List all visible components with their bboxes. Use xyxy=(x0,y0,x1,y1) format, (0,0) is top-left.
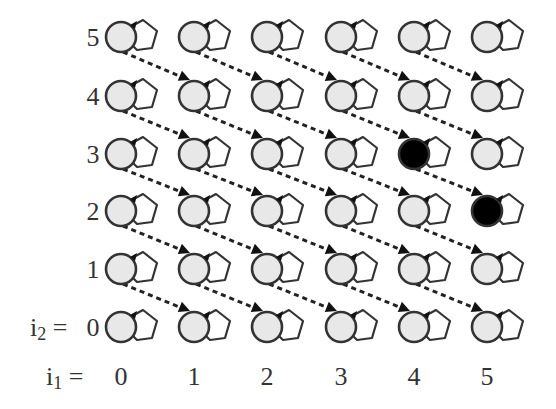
node-circle xyxy=(399,22,429,52)
dependence-edge xyxy=(123,52,184,78)
dependence-edge xyxy=(343,226,404,251)
node-circle xyxy=(399,196,429,226)
node-circle xyxy=(326,81,356,111)
dependence-edge xyxy=(269,169,331,193)
col-label-4: 4 xyxy=(408,362,421,391)
dependence-edge xyxy=(416,226,477,251)
node-circle xyxy=(252,254,282,284)
node-i1-0-i2-4 xyxy=(106,79,157,111)
node-circle xyxy=(326,312,356,342)
col-label-5: 5 xyxy=(481,362,494,391)
node-i1-2-i2-2 xyxy=(252,194,303,226)
arrowhead-icon xyxy=(325,129,337,139)
arrowhead-icon xyxy=(398,186,410,196)
arrowhead-icon xyxy=(251,186,263,196)
node-i1-5-i2-4 xyxy=(472,79,523,111)
dependence-edge xyxy=(416,169,477,193)
dependence-edge xyxy=(196,111,257,136)
arrowhead-icon xyxy=(325,71,337,81)
dependence-edge xyxy=(196,52,257,78)
row-label-1: 1 xyxy=(87,255,100,284)
node-i1-5-i2-3 xyxy=(472,137,523,169)
node-circle xyxy=(179,139,209,169)
node-i1-1-i2-3 xyxy=(179,137,230,169)
dependence-graph-diagram: i2 = i1 = 012345012345 xyxy=(0,0,556,409)
dependence-edge xyxy=(269,111,331,136)
node-i1-5-i2-0 xyxy=(472,310,523,342)
arrowhead-icon xyxy=(398,244,410,254)
node-i1-4-i2-0 xyxy=(399,310,450,342)
node-i1-5-i2-2 xyxy=(472,194,523,226)
arrowhead-icon xyxy=(398,129,410,139)
arrowhead-icon xyxy=(178,186,190,196)
node-circle xyxy=(252,196,282,226)
arrowhead-icon xyxy=(471,71,483,81)
node-i1-4-i2-1 xyxy=(399,252,450,284)
arrowhead-icon xyxy=(471,244,483,254)
node-i1-1-i2-5 xyxy=(179,20,230,52)
arrowhead-icon xyxy=(325,302,337,312)
highlighted-node-circle xyxy=(399,139,429,169)
node-circle xyxy=(106,139,136,169)
node-i1-2-i2-4 xyxy=(252,79,303,111)
node-i1-4-i2-3 xyxy=(399,137,450,169)
dependence-edge xyxy=(416,52,477,78)
dependence-edge xyxy=(196,284,257,309)
node-circle xyxy=(252,81,282,111)
dependence-edge xyxy=(123,226,184,251)
node-circle xyxy=(106,22,136,52)
node-i1-3-i2-5 xyxy=(326,20,377,52)
node-i1-3-i2-4 xyxy=(326,79,377,111)
node-circle xyxy=(252,312,282,342)
node-i1-1-i2-2 xyxy=(179,194,230,226)
node-i1-5-i2-5 xyxy=(472,20,523,52)
node-circle xyxy=(179,312,209,342)
dependence-edge xyxy=(343,52,404,78)
node-i1-0-i2-3 xyxy=(106,137,157,169)
arrowhead-icon xyxy=(178,302,190,312)
dependence-edge xyxy=(269,284,331,309)
col-label-3: 3 xyxy=(335,362,348,391)
arrowhead-icon xyxy=(325,244,337,254)
arrowhead-icon xyxy=(398,71,410,81)
arrowhead-icon xyxy=(178,129,190,139)
node-i1-0-i2-5 xyxy=(106,20,157,52)
col-label-2: 2 xyxy=(261,362,274,391)
arrowhead-icon xyxy=(471,302,483,312)
node-circle xyxy=(472,81,502,111)
arrowhead-icon xyxy=(251,71,263,81)
node-i1-1-i2-4 xyxy=(179,79,230,111)
dependence-edge xyxy=(269,226,331,251)
arrowhead-icon xyxy=(178,71,190,81)
dependence-edge xyxy=(196,226,257,251)
node-i1-4-i2-4 xyxy=(399,79,450,111)
row-label-0: 0 xyxy=(87,313,100,342)
arrowhead-icon xyxy=(251,302,263,312)
iteration-nodes xyxy=(106,20,523,342)
arrowhead-icon xyxy=(251,244,263,254)
dependence-edge xyxy=(343,111,404,136)
node-i1-3-i2-0 xyxy=(326,310,377,342)
row-label-3: 3 xyxy=(87,140,100,169)
row-axis-label: i2 = xyxy=(30,313,67,344)
node-i1-3-i2-3 xyxy=(326,137,377,169)
node-circle xyxy=(326,139,356,169)
arrowhead-icon xyxy=(178,244,190,254)
node-circle xyxy=(179,196,209,226)
row-label-4: 4 xyxy=(87,82,100,111)
node-circle xyxy=(326,22,356,52)
node-circle xyxy=(472,22,502,52)
col-label-1: 1 xyxy=(188,362,201,391)
dependence-edge xyxy=(343,284,404,309)
dependence-edge xyxy=(196,169,257,193)
dependence-edge xyxy=(123,284,184,309)
node-circle xyxy=(106,312,136,342)
node-circle xyxy=(252,139,282,169)
dependence-edge xyxy=(343,169,404,193)
dependence-edge xyxy=(123,111,184,136)
node-i1-0-i2-2 xyxy=(106,194,157,226)
node-circle xyxy=(326,196,356,226)
node-i1-5-i2-1 xyxy=(472,252,523,284)
node-i1-4-i2-5 xyxy=(399,20,450,52)
highlighted-node-circle xyxy=(472,196,502,226)
